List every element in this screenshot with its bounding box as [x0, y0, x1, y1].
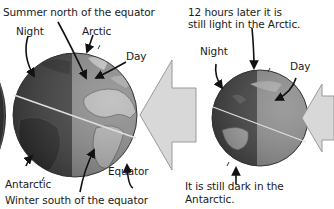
still-dark-caption-line2: Antarctic.	[185, 193, 234, 205]
arctic-label: Arctic	[82, 25, 111, 37]
twelve-hours-caption-line2: still light in the Arctic.	[188, 18, 300, 30]
winter-south-label: Winter south of the equator	[5, 194, 148, 206]
night-label-large: Night	[16, 25, 44, 37]
twelve-hours-caption-line1: 12 hours later it is	[188, 6, 282, 18]
equator-label: Equator	[108, 165, 149, 177]
day-label-large: Day	[126, 50, 146, 62]
sunlight-arrow-small-icon	[302, 84, 334, 152]
antarctic-label: Antarctic	[5, 178, 51, 190]
earth-globe-icon-small	[200, 60, 320, 180]
day-label-small: Day	[290, 60, 310, 72]
partial-globe-left-edge	[0, 82, 6, 150]
sunlight-arrow-large-icon	[140, 60, 196, 170]
night-label-small: Night	[200, 45, 228, 57]
still-dark-caption-line1: It is still dark in the	[185, 180, 284, 192]
summer-north-label: Summer north of the equator	[3, 6, 155, 18]
